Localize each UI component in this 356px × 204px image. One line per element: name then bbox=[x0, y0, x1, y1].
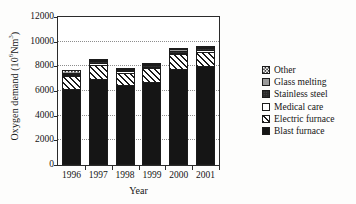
legend-item-electric-furnace[interactable]: Electric furnace bbox=[262, 113, 354, 125]
legend-swatch-icon bbox=[262, 103, 270, 111]
bar-segment-blast-furnace[interactable] bbox=[142, 82, 161, 165]
bar-segment-electric-furnace[interactable] bbox=[116, 73, 135, 85]
bar-2001[interactable] bbox=[196, 46, 215, 165]
legend-item-label: Other bbox=[274, 65, 296, 75]
legend-item-label: Glass melting bbox=[274, 77, 327, 87]
bar-segment-blast-furnace[interactable] bbox=[116, 85, 135, 165]
gridline bbox=[58, 90, 219, 91]
bar-segment-blast-furnace[interactable] bbox=[89, 79, 108, 165]
y-axis-tick-label: 8000 bbox=[8, 62, 54, 72]
y-axis-title-exp1: 6 bbox=[7, 54, 14, 57]
legend-item-label: Electric furnace bbox=[274, 114, 334, 124]
bar-1998[interactable] bbox=[116, 68, 135, 165]
y-axis-tick-label: 2000 bbox=[8, 136, 54, 146]
y-axis-tick-label: 12000 bbox=[8, 12, 54, 22]
bar-segment-electric-furnace[interactable] bbox=[62, 76, 81, 88]
bar-2000[interactable] bbox=[169, 48, 188, 165]
bar-1999[interactable] bbox=[142, 63, 161, 165]
legend-item-label: Stainless steel bbox=[274, 89, 328, 99]
gridline bbox=[58, 41, 219, 42]
bar-segment-electric-furnace[interactable] bbox=[89, 65, 108, 80]
legend-item-glass-melting[interactable]: Glass melting bbox=[262, 76, 354, 88]
legend-item-stainless-steel[interactable]: Stainless steel bbox=[262, 88, 354, 100]
bar-segment-blast-furnace[interactable] bbox=[169, 69, 188, 165]
y-axis-title-paren: ) bbox=[8, 32, 19, 35]
legend-item-blast-furnace[interactable]: Blast furnace bbox=[262, 125, 354, 137]
gridline bbox=[58, 65, 219, 66]
plot-inner bbox=[58, 17, 219, 165]
legend-item-medical-care[interactable]: Medical care bbox=[262, 101, 354, 113]
bar-segment-blast-furnace[interactable] bbox=[196, 66, 215, 165]
legend-item-label: Medical care bbox=[274, 102, 323, 112]
bar-segment-electric-furnace[interactable] bbox=[196, 52, 215, 66]
x-axis-title: Year bbox=[57, 185, 220, 196]
legend-swatch-icon bbox=[262, 90, 270, 98]
bar-segment-blast-furnace[interactable] bbox=[62, 89, 81, 165]
legend-item-label: Blast furnace bbox=[274, 126, 324, 136]
plot-area bbox=[57, 16, 220, 166]
legend-swatch-icon bbox=[262, 66, 270, 74]
bar-segment-electric-furnace[interactable] bbox=[169, 54, 188, 69]
chart-legend: OtherGlass meltingStainless steelMedical… bbox=[262, 64, 354, 137]
bar-1996[interactable] bbox=[62, 70, 81, 165]
legend-swatch-icon bbox=[262, 127, 270, 135]
legend-swatch-icon bbox=[262, 115, 270, 123]
bar-segment-electric-furnace[interactable] bbox=[142, 68, 161, 82]
x-axis-tick-label: 2001 bbox=[186, 170, 226, 181]
y-axis-tick-label: 4000 bbox=[8, 111, 54, 121]
y-axis-tick-label: 10000 bbox=[8, 37, 54, 47]
gridline bbox=[58, 139, 219, 140]
legend-item-other[interactable]: Other bbox=[262, 64, 354, 76]
chart-figure: Oxygen demand (106Nm3) 02000400060008000… bbox=[0, 0, 356, 204]
bar-1997[interactable] bbox=[89, 59, 108, 165]
gridline bbox=[58, 115, 219, 116]
legend-swatch-icon bbox=[262, 78, 270, 86]
y-axis-tick-label: 6000 bbox=[8, 86, 54, 96]
y-axis-tick-label: 0 bbox=[8, 160, 54, 170]
